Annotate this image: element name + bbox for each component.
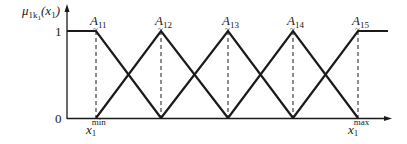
y-label-arg: (x [41,3,51,18]
set-label-A13: A13~ [222,14,239,30]
mf-A15 [293,31,388,118]
x-tick-max: xmax1 [348,123,370,143]
x-tick-sup: min [92,118,106,127]
x-tick-sup: max [354,118,370,127]
tilde-icon: ~ [352,25,363,34]
mf-A12 [96,31,228,118]
set-label-A12: A12~ [155,14,172,30]
set-label-A14: A14~ [287,14,304,30]
set-label-A15: A15~ [352,14,369,30]
center-guides [96,31,358,118]
x-axis-arrow-icon [384,116,392,121]
mf-A13 [161,31,293,118]
x-tick-sub: 1 [92,129,97,138]
tilde-icon: ~ [222,25,233,34]
x-tick-sub: 1 [354,129,359,138]
y-tick-0: 0 [55,112,62,125]
y-axis-label: μ1k1(x1) [22,4,60,22]
tilde-icon: ~ [90,25,101,34]
tilde-icon: ~ [287,25,298,34]
y-label-close: ) [56,3,60,18]
y-label-sub: 1k [29,10,38,20]
y-tick-1: 1 [55,25,62,38]
mf-A11 [67,31,161,118]
tilde-icon: ~ [155,25,166,34]
set-label-A11: A11~ [90,14,107,30]
y-axis-arrow-icon [65,4,70,12]
x-tick-min: xmin1 [86,123,108,143]
